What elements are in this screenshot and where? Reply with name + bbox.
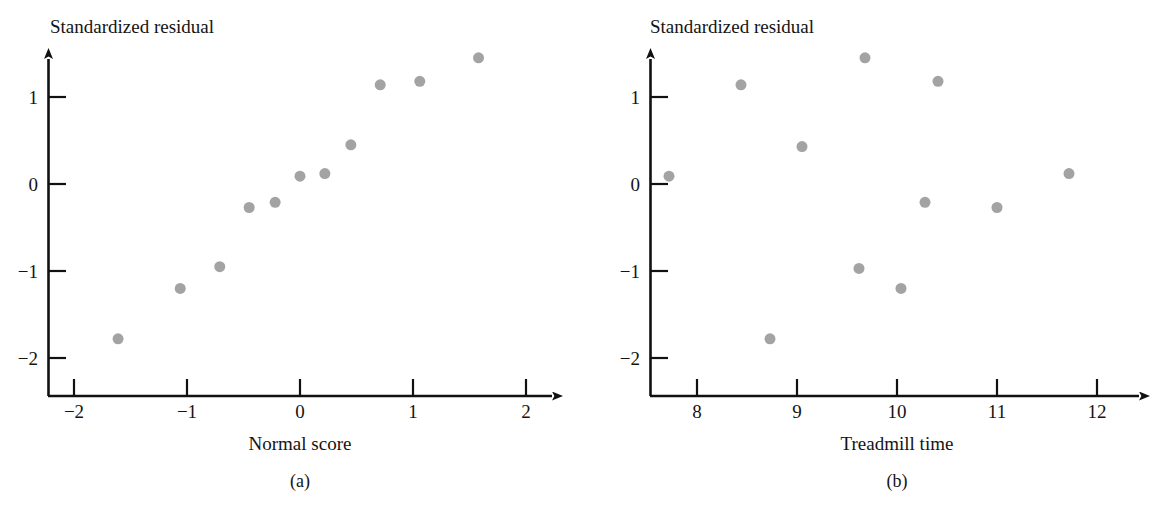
data-point — [113, 333, 124, 344]
x-tick-label-a-2: 0 — [280, 402, 320, 421]
figure-container: Standardized residual −2−1012 10−1−2 Nor… — [0, 0, 1165, 519]
panel-caption-b: (b) — [847, 472, 947, 490]
data-point — [933, 76, 944, 87]
data-points-a — [113, 52, 484, 344]
data-point — [175, 283, 186, 294]
data-point — [244, 202, 255, 213]
y-tick-label-a-0: 1 — [4, 88, 38, 107]
panel-caption-a: (a) — [250, 472, 350, 490]
data-point — [765, 333, 776, 344]
data-point — [736, 79, 747, 90]
scatter-panel-a: Standardized residual −2−1012 10−1−2 Nor… — [0, 0, 583, 519]
data-point — [319, 168, 330, 179]
data-point — [345, 139, 356, 150]
data-point — [854, 263, 865, 274]
x-tick-label-a-4: 2 — [506, 402, 546, 421]
y-tick-label-a-3: −2 — [4, 349, 38, 368]
data-point — [896, 283, 907, 294]
data-point — [920, 197, 931, 208]
x-tick-label-b-4: 12 — [1077, 402, 1117, 421]
scatter-panel-b: Standardized residual 89101112 10−1−2 Tr… — [583, 0, 1165, 519]
data-points-b — [664, 52, 1075, 344]
data-point — [1064, 168, 1075, 179]
data-point — [270, 197, 281, 208]
y-tick-label-b-0: 1 — [606, 88, 640, 107]
y-tick-label-b-3: −2 — [606, 349, 640, 368]
y-tick-label-b-1: 0 — [606, 175, 640, 194]
data-point — [860, 52, 871, 63]
data-point — [473, 52, 484, 63]
x-axis-title-a: Normal score — [200, 434, 400, 453]
data-point — [414, 76, 425, 87]
x-tick-label-b-3: 11 — [977, 402, 1017, 421]
y-tick-label-a-1: 0 — [4, 175, 38, 194]
data-point — [992, 202, 1003, 213]
axis-lines-b — [650, 59, 1139, 396]
x-tick-label-b-2: 10 — [877, 402, 917, 421]
data-point — [375, 79, 386, 90]
y-tick-label-b-2: −1 — [606, 262, 640, 281]
y-tick-label-a-2: −1 — [4, 262, 38, 281]
x-tick-label-a-3: 1 — [393, 402, 433, 421]
data-point — [797, 141, 808, 152]
x-axis-title-b: Treadmill time — [797, 434, 997, 453]
axis-lines-a — [48, 59, 552, 396]
axis-ticks-a — [48, 97, 526, 396]
x-tick-label-a-0: −2 — [54, 402, 94, 421]
axis-ticks-b — [650, 97, 1097, 396]
x-tick-label-a-1: −1 — [167, 402, 207, 421]
x-tick-label-b-1: 9 — [777, 402, 817, 421]
x-tick-label-b-0: 8 — [677, 402, 717, 421]
data-point — [295, 171, 306, 182]
data-point — [214, 261, 225, 272]
data-point — [664, 171, 675, 182]
